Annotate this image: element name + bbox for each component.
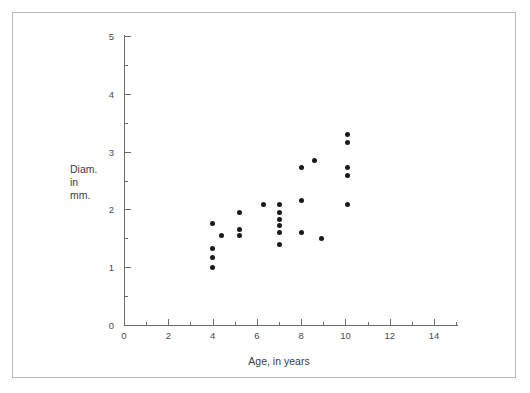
data-point xyxy=(345,140,350,145)
data-point xyxy=(345,173,350,178)
data-point xyxy=(299,198,304,203)
x-minor-tick-11 xyxy=(368,322,369,325)
y-minor-tick-2.5 xyxy=(125,181,128,182)
data-point xyxy=(261,202,266,207)
x-tick-label-14: 14 xyxy=(429,330,440,341)
x-minor-tick-13 xyxy=(412,322,413,325)
x-tick-4 xyxy=(213,319,214,325)
y-tick-1 xyxy=(125,267,131,268)
x-tick-2 xyxy=(168,319,169,325)
x-minor-tick-5 xyxy=(235,322,236,325)
x-tick-12 xyxy=(390,319,391,325)
y-tick-2 xyxy=(125,209,131,210)
x-tick-10 xyxy=(345,319,346,325)
x-tick-14 xyxy=(434,319,435,325)
data-point xyxy=(237,210,242,215)
data-point xyxy=(345,132,350,137)
y-tick-label-3: 3 xyxy=(109,146,114,157)
y-tick-label-5: 5 xyxy=(109,31,114,42)
data-point xyxy=(277,242,282,247)
y-minor-tick-0.5 xyxy=(125,296,128,297)
y-tick-label-2: 2 xyxy=(109,204,114,215)
x-tick-label-4: 4 xyxy=(210,330,215,341)
data-point xyxy=(319,236,324,241)
y-tick-4 xyxy=(125,94,131,95)
data-point xyxy=(210,221,215,226)
y-tick-0 xyxy=(125,325,131,326)
data-point xyxy=(312,158,317,163)
x-minor-tick-9 xyxy=(323,322,324,325)
y-axis-title-line-2: in xyxy=(70,176,97,189)
x-minor-tick-1 xyxy=(146,322,147,325)
plot-area: 02468101214 012345 xyxy=(124,36,434,325)
x-tick-label-10: 10 xyxy=(340,330,351,341)
y-axis-title-line-3: mm. xyxy=(70,189,97,202)
y-minor-tick-3.5 xyxy=(125,123,128,124)
x-minor-tick-3 xyxy=(190,322,191,325)
x-tick-8 xyxy=(301,319,302,325)
x-tick-label-12: 12 xyxy=(384,330,395,341)
data-point xyxy=(277,217,282,222)
x-axis-line xyxy=(124,325,458,326)
y-tick-5 xyxy=(125,36,131,37)
y-minor-tick-1.5 xyxy=(125,238,128,239)
data-point xyxy=(345,165,350,170)
x-minor-tick-7 xyxy=(279,322,280,325)
data-point xyxy=(210,255,215,260)
y-tick-label-0: 0 xyxy=(109,320,114,331)
x-tick-label-0: 0 xyxy=(121,330,126,341)
x-minor-tick-15 xyxy=(456,322,457,325)
data-point xyxy=(345,202,350,207)
y-minor-tick-4.5 xyxy=(125,65,128,66)
scatter-plot-figure: Diam. in mm. Age, in years 02468101214 0… xyxy=(0,0,530,393)
data-point xyxy=(299,230,304,235)
y-axis-title: Diam. in mm. xyxy=(70,163,97,202)
data-point xyxy=(210,265,215,270)
y-tick-label-1: 1 xyxy=(109,262,114,273)
data-point xyxy=(299,165,304,170)
data-point xyxy=(277,223,282,228)
data-point xyxy=(219,233,224,238)
data-point xyxy=(237,233,242,238)
y-axis-title-line-1: Diam. xyxy=(70,163,97,176)
data-point xyxy=(210,246,215,251)
data-point xyxy=(237,227,242,232)
data-point xyxy=(277,210,282,215)
x-axis-title: Age, in years xyxy=(124,355,434,367)
x-tick-label-6: 6 xyxy=(254,330,259,341)
y-tick-label-4: 4 xyxy=(109,88,114,99)
data-point xyxy=(277,230,282,235)
x-tick-label-8: 8 xyxy=(298,330,303,341)
data-point xyxy=(277,202,282,207)
y-tick-3 xyxy=(125,152,131,153)
x-tick-label-2: 2 xyxy=(166,330,171,341)
x-tick-6 xyxy=(257,319,258,325)
